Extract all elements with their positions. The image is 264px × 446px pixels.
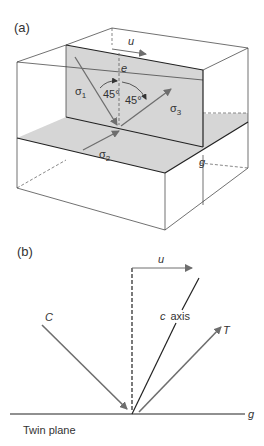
u-arrow <box>112 49 146 54</box>
C-arrow <box>42 325 127 409</box>
panel-a: (a) u e σ1 σ2 σ3 45° 45° g <box>14 20 248 230</box>
e-label: e <box>121 62 127 74</box>
angle-label-2: 45° <box>125 94 142 106</box>
u-label-b: u <box>158 253 164 265</box>
C-label: C <box>45 311 53 323</box>
panel-a-label: (a) <box>14 20 30 35</box>
T-arrow <box>139 327 221 412</box>
c-axis-line-top <box>182 278 199 310</box>
u-label-a: u <box>128 35 134 47</box>
c-axis-label: caxis <box>160 310 191 322</box>
twin-plane-label: Twin plane <box>23 424 76 436</box>
c-axis-line <box>132 323 176 414</box>
panel-b-label: (b) <box>17 244 33 259</box>
T-label: T <box>223 324 231 336</box>
g-label-b: g <box>248 408 255 420</box>
angle-label-1: 45° <box>103 88 120 100</box>
twinning-diagram: (a) u e σ1 σ2 σ3 45° 45° g (b) u C caxis… <box>0 0 264 446</box>
panel-b: (b) u C caxis T g Twin plane <box>10 244 255 436</box>
g-label-a: g <box>199 156 206 168</box>
